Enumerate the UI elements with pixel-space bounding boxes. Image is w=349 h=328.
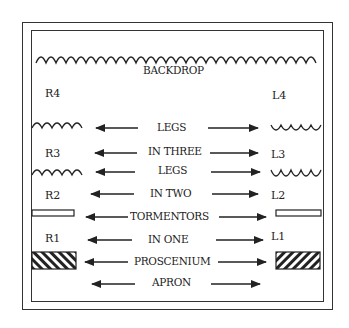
backdrop-label: BACKDROP <box>143 64 204 76</box>
row-label-legs-1: LEGS <box>157 121 186 133</box>
row-label-legs-2: LEGS <box>158 164 187 176</box>
position-l2: L2 <box>271 189 285 202</box>
position-l1: L1 <box>271 230 285 243</box>
position-r2: R2 <box>45 189 60 202</box>
row-label-in-one: IN ONE <box>148 233 188 245</box>
row-label-apron: APRON <box>152 276 191 288</box>
position-r3: R3 <box>45 147 60 160</box>
position-r1: R1 <box>45 232 60 245</box>
row-label-in-three: IN THREE <box>148 145 202 157</box>
backdrop-curtain <box>36 57 316 63</box>
position-r4: R4 <box>45 87 60 100</box>
row-label-proscenium: PROSCENIUM <box>134 255 210 267</box>
row-label-in-two: IN TWO <box>150 187 191 199</box>
position-l4: L4 <box>272 89 286 102</box>
position-l3: L3 <box>271 148 285 161</box>
row-label-tormentors: TORMENTORS <box>130 210 209 222</box>
